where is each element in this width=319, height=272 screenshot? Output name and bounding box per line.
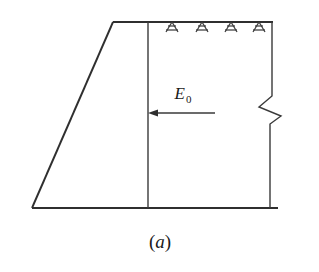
force-label-subscript: 0 [186, 93, 192, 105]
caption-paren-close: ) [165, 231, 171, 253]
figure-caption: (a) [149, 231, 171, 253]
retaining-wall-diagram: E0 (a) [0, 0, 319, 272]
force-label-symbol: E [174, 84, 186, 103]
caption-letter: a [155, 231, 165, 252]
figure-container: E0 (a) [0, 0, 319, 272]
